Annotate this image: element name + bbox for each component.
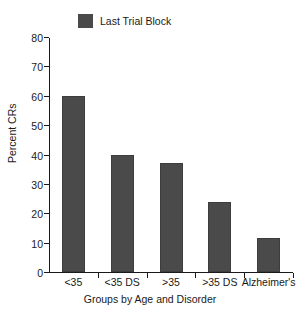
x-axis-line <box>49 272 293 273</box>
plot-area <box>49 38 293 273</box>
y-axis-tick <box>44 125 49 126</box>
bar <box>257 238 280 272</box>
y-axis-tick <box>44 155 49 156</box>
x-axis-tick-label: <35 <box>64 276 82 289</box>
y-axis-tick <box>44 96 49 97</box>
y-axis-tick-label: 10 <box>31 238 43 249</box>
x-axis-tick-label: <35 DS <box>105 276 140 289</box>
x-axis-tick-label: >35 <box>162 276 180 289</box>
y-axis-tick-label: 70 <box>31 62 43 73</box>
y-axis-tick-label: 0 <box>37 268 43 279</box>
y-axis-tick <box>44 243 49 244</box>
y-axis-tick-label: 80 <box>31 33 43 44</box>
x-axis-title: Groups by Age and Disorder <box>0 293 300 306</box>
y-axis-tick-label: 50 <box>31 121 43 132</box>
legend-swatch-last-trial-block <box>78 14 93 28</box>
y-axis-tick-label: 20 <box>31 209 43 220</box>
y-axis-tick <box>44 213 49 214</box>
y-axis-tick <box>44 66 49 67</box>
bar <box>208 202 231 273</box>
x-axis-tick-label: Alzheimer's <box>242 276 296 289</box>
bar <box>160 163 183 272</box>
y-axis-tick <box>44 272 49 273</box>
legend-label-last-trial-block: Last Trial Block <box>100 16 171 27</box>
y-axis-tick-label: 60 <box>31 92 43 103</box>
chart-legend: Last Trial Block <box>78 14 171 28</box>
x-axis-tick-label: >35 DS <box>202 276 237 289</box>
y-axis-tick-label: 30 <box>31 180 43 191</box>
y-axis-tick-label: 40 <box>31 150 43 161</box>
y-axis-title: Percent CRs <box>7 85 18 181</box>
y-axis-line <box>49 38 50 273</box>
y-axis-tick <box>44 37 49 38</box>
bar-chart-figure: Last Trial Block 01020304050607080 Perce… <box>0 0 300 326</box>
x-axis-category-labels: <35<35 DS>35>35 DSAlzheimer's <box>49 276 293 290</box>
bar <box>111 155 134 273</box>
y-axis-tick-labels: 01020304050607080 <box>22 38 43 273</box>
y-axis-tick <box>44 184 49 185</box>
bar <box>62 96 85 272</box>
